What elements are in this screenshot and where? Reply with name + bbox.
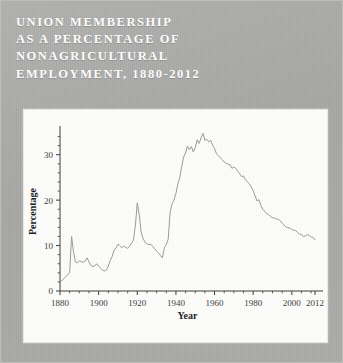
x-tick-label: 1960 <box>206 298 225 308</box>
chart-title: UNION MEMBERSHIP AS A PERCENTAGE OF NONA… <box>16 14 316 83</box>
y-tick-label: 0 <box>49 286 54 296</box>
data-line-union-membership <box>60 133 315 282</box>
line-chart-plot: 010203018801900192019401960198020002012Y… <box>24 110 325 340</box>
y-tick-label: 30 <box>44 150 54 160</box>
x-tick-label: 1900 <box>90 298 109 308</box>
x-tick-label: 2000 <box>283 298 302 308</box>
y-tick-label: 10 <box>44 241 54 251</box>
x-tick-label: 1980 <box>244 298 263 308</box>
x-tick-label: 1920 <box>128 298 147 308</box>
x-tick-label: 1940 <box>167 298 186 308</box>
x-axis-label: Year <box>178 310 199 321</box>
chart-panel: 010203018801900192019401960198020002012Y… <box>23 109 328 343</box>
x-tick-label: 1880 <box>51 298 70 308</box>
x-tick-label: 2012 <box>306 298 324 308</box>
figure-container: UNION MEMBERSHIP AS A PERCENTAGE OF NONA… <box>0 0 343 363</box>
y-tick-label: 20 <box>44 196 54 206</box>
y-axis-label: Percentage <box>27 187 38 235</box>
